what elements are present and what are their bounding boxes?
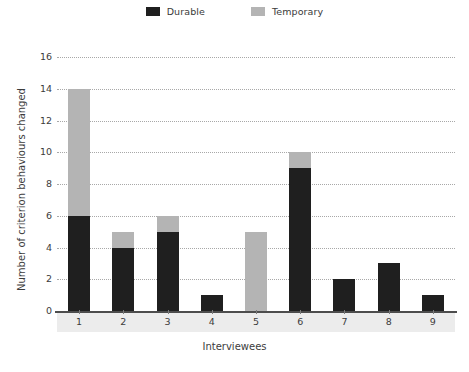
bar-group[interactable] bbox=[333, 57, 355, 311]
bar-segment-durable[interactable] bbox=[201, 295, 223, 311]
bar-segment-durable[interactable] bbox=[333, 279, 355, 311]
x-tick-mark bbox=[123, 310, 124, 314]
bar-segment-temporary[interactable] bbox=[245, 232, 267, 311]
legend-item-durable[interactable]: Durable bbox=[146, 7, 205, 17]
chart-legend: Durable Temporary bbox=[0, 7, 469, 17]
x-tick-label: 1 bbox=[64, 317, 94, 327]
x-tick-label: 3 bbox=[153, 317, 183, 327]
x-tick-label: 2 bbox=[108, 317, 138, 327]
bar-group[interactable] bbox=[157, 57, 179, 311]
legend-label-temporary: Temporary bbox=[272, 7, 323, 17]
bar-segment-durable[interactable] bbox=[422, 295, 444, 311]
bar-group[interactable] bbox=[378, 57, 400, 311]
bar-segment-durable[interactable] bbox=[289, 168, 311, 311]
x-tick-mark bbox=[344, 310, 345, 314]
x-tick-label: 5 bbox=[241, 317, 271, 327]
bar-segment-temporary[interactable] bbox=[112, 232, 134, 248]
bar-group[interactable] bbox=[245, 57, 267, 311]
legend-item-temporary[interactable]: Temporary bbox=[251, 7, 323, 17]
bar-group[interactable] bbox=[201, 57, 223, 311]
bar-segment-durable[interactable] bbox=[112, 248, 134, 312]
x-tick-mark bbox=[168, 310, 169, 314]
x-tick-label: 4 bbox=[197, 317, 227, 327]
bar-group[interactable] bbox=[422, 57, 444, 311]
legend-label-durable: Durable bbox=[167, 7, 205, 17]
x-tick-mark bbox=[300, 310, 301, 314]
x-tick-label: 7 bbox=[329, 317, 359, 327]
bar-chart: Durable Temporary 0246810121416 Number o… bbox=[0, 0, 469, 372]
x-axis-title: Interviewees bbox=[0, 341, 469, 352]
bar-segment-durable[interactable] bbox=[68, 216, 90, 311]
bar-group[interactable] bbox=[68, 57, 90, 311]
x-axis-ticks: 123456789 bbox=[57, 313, 455, 332]
x-tick-label: 6 bbox=[285, 317, 315, 327]
x-tick-mark bbox=[433, 310, 434, 314]
x-tick-label: 8 bbox=[374, 317, 404, 327]
bar-segment-temporary[interactable] bbox=[68, 89, 90, 216]
legend-swatch-durable bbox=[146, 7, 160, 16]
bar-segment-durable[interactable] bbox=[157, 232, 179, 311]
bar-segment-temporary[interactable] bbox=[289, 152, 311, 168]
y-tick-label: 0 bbox=[0, 306, 52, 316]
y-axis-title: Number of criterion behaviours changed bbox=[16, 75, 27, 305]
x-tick-mark bbox=[79, 310, 80, 314]
y-tick-label: 16 bbox=[0, 52, 52, 62]
bar-segment-durable[interactable] bbox=[378, 263, 400, 311]
x-tick-mark bbox=[256, 310, 257, 314]
x-tick-mark bbox=[212, 310, 213, 314]
plot-area bbox=[57, 57, 455, 311]
legend-swatch-temporary bbox=[251, 7, 265, 16]
x-tick-mark bbox=[389, 310, 390, 314]
x-tick-label: 9 bbox=[418, 317, 448, 327]
bar-group[interactable] bbox=[112, 57, 134, 311]
bar-segment-temporary[interactable] bbox=[157, 216, 179, 232]
bar-group[interactable] bbox=[289, 57, 311, 311]
